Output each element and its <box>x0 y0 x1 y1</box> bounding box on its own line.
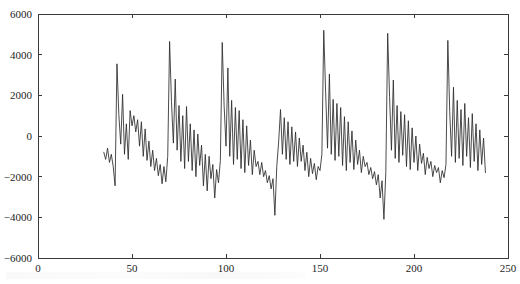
page-smudge-artifact <box>6 272 306 279</box>
y-tick-label: 6000 <box>10 8 33 20</box>
y-tick-label: −2000 <box>4 171 33 183</box>
y-tick-label: 2000 <box>10 89 33 101</box>
y-tick-label: −6000 <box>4 252 33 264</box>
x-tick-label: 250 <box>500 262 517 274</box>
y-tick-label: −4000 <box>4 211 33 223</box>
x-tick-label: 150 <box>312 262 329 274</box>
y-tick-label: 4000 <box>10 49 33 61</box>
x-tick-label: 200 <box>406 262 423 274</box>
y-tick-label: 0 <box>27 130 33 142</box>
chart-background <box>0 0 520 284</box>
chart-figure: 050100150200250 −6000−4000−2000020004000… <box>0 0 520 284</box>
line-chart: 050100150200250 −6000−4000−2000020004000… <box>0 0 520 284</box>
